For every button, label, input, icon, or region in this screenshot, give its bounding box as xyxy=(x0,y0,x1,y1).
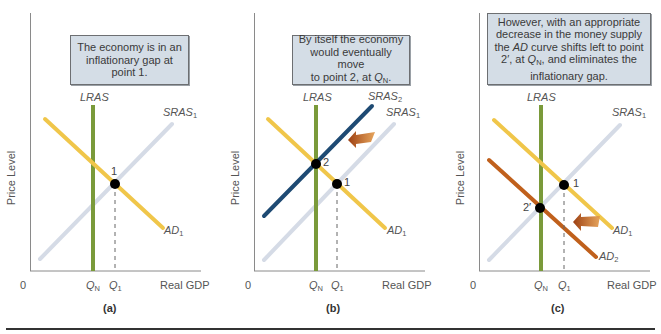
panel-b-note-box: By itself the economy would eventually m… xyxy=(292,35,410,85)
panel-b-point-1 xyxy=(332,179,342,189)
panel-a-y-axis-label: Price Level xyxy=(5,151,17,205)
panel-c-point-1 xyxy=(559,180,569,190)
panel-a-point-1-label: 1 xyxy=(111,165,117,177)
panel-a-x-axis-label: Real GDP xyxy=(160,279,210,291)
panel-b-y-axis-label: Price Level xyxy=(229,151,241,205)
panel-c-caption: (c) xyxy=(551,302,564,314)
panel-c-q1-tick: Q1 xyxy=(558,279,571,293)
panel-a-ad1-label: AD1 xyxy=(164,224,183,238)
panel-c-note-text: However, with an appropriate decrease in… xyxy=(494,16,643,83)
panel-b-q1-tick: Q1 xyxy=(331,279,344,293)
panel-c-lras-label: LRAS xyxy=(527,91,556,103)
panel-b-point-2-label: 2 xyxy=(323,156,329,168)
panel-b-sras1-label: SRAS1 xyxy=(386,106,420,120)
panel-a-note-box: The economy is in an inflationary gap at… xyxy=(70,35,189,85)
panel-a-point-1 xyxy=(110,179,120,189)
panel-c-x-axis-label: Real GDP xyxy=(607,279,657,291)
panel-b-point-1-label: 1 xyxy=(344,176,350,188)
panel-a-qn-tick: QN xyxy=(86,279,100,293)
panel-a-sras1-label: SRAS1 xyxy=(163,106,197,120)
panel-b-sras1-curve xyxy=(264,124,394,260)
panel-a-q1-tick: Q1 xyxy=(109,279,122,293)
panel-b-caption: (b) xyxy=(326,302,340,314)
panel-a-caption: (a) xyxy=(103,302,116,314)
panel-c-ad1-label: AD1 xyxy=(613,224,632,238)
panel-c-sras1-curve xyxy=(489,125,620,260)
panel-b-sras2-label: SRAS2 xyxy=(368,90,402,104)
panel-c-qn-tick: QN xyxy=(534,279,548,293)
panel-b-ad1-label: AD1 xyxy=(387,224,406,238)
panel-b-note-text: By itself the economy would eventually m… xyxy=(297,33,405,87)
panel-c-origin-label: 0 xyxy=(470,279,476,291)
panel-c-ad1-curve xyxy=(494,120,612,228)
panel-c-note-box: However, with an appropriate decrease in… xyxy=(487,13,651,85)
panel-b-qn-tick: QN xyxy=(309,279,323,293)
panel-a-ad1-curve xyxy=(45,119,163,228)
panel-b-lras-label: LRAS xyxy=(303,91,332,103)
panel-c-point-1-label: 1 xyxy=(573,177,579,189)
panel-b-origin-label: 0 xyxy=(245,279,251,291)
panel-c-y-axis-label: Price Level xyxy=(454,151,466,205)
panel-b-point-2 xyxy=(311,159,321,169)
panel-c-point-2-prime-label: 2′ xyxy=(523,201,531,213)
panel-b-x-axis-label: Real GDP xyxy=(382,279,432,291)
panel-a-lras-label: LRAS xyxy=(80,91,109,103)
panel-c-point-2-prime xyxy=(535,203,545,213)
panel-c-sras1-label: SRAS1 xyxy=(612,106,646,120)
panel-a-origin-label: 0 xyxy=(20,279,26,291)
panel-c-ad2-label: AD2 xyxy=(599,250,618,264)
panel-a-note-text: The economy is in an inflationary gap at… xyxy=(75,41,184,79)
panel-a-sras1-curve xyxy=(40,124,172,259)
